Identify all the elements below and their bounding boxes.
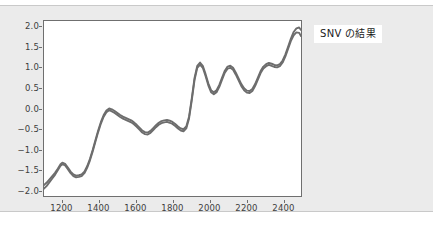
data-series-line-1: [44, 32, 301, 188]
document-panel: 2.01.51.00.50.0−0.5−1.0−1.5−2.0 12001400…: [0, 5, 433, 212]
plot-axes: [43, 20, 302, 197]
x-tick-label: 2400: [264, 203, 304, 213]
x-tick-label: 1600: [116, 203, 156, 213]
y-tick-mark: [39, 170, 42, 171]
x-tick-mark: [210, 200, 211, 203]
chart-figure: 2.01.51.00.50.0−0.5−1.0−1.5−2.0 12001400…: [4, 14, 304, 208]
y-tick-mark: [39, 109, 42, 110]
y-axis-tick-labels: 2.01.51.00.50.0−0.5−1.0−1.5−2.0: [4, 20, 39, 197]
screenshot-root: 2.01.51.00.50.0−0.5−1.0−1.5−2.0 12001400…: [0, 0, 433, 226]
y-tick-mark: [39, 67, 42, 68]
x-tick-label: 1200: [42, 203, 82, 213]
y-tick-label: −1.0: [7, 145, 39, 154]
y-tick-mark: [39, 191, 42, 192]
x-tick-label: 1400: [79, 203, 119, 213]
x-tick-mark: [136, 200, 137, 203]
y-tick-mark: [39, 26, 42, 27]
y-tick-label: 0.5: [7, 83, 39, 92]
x-axis-tick-labels: 1200140016001800200022002400: [43, 200, 302, 216]
y-tick-label: 0.0: [7, 104, 39, 113]
x-tick-label: 1800: [153, 203, 193, 213]
y-tick-label: −2.0: [7, 186, 39, 195]
x-tick-mark: [173, 200, 174, 203]
snv-result-annotation: SNV の結果: [314, 25, 382, 43]
y-tick-label: −0.5: [7, 125, 39, 134]
y-tick-mark: [39, 47, 42, 48]
x-tick-label: 2200: [227, 203, 267, 213]
y-tick-mark: [39, 150, 42, 151]
line-chart-svg: [44, 21, 301, 196]
x-tick-label: 2000: [190, 203, 230, 213]
x-tick-mark: [284, 200, 285, 203]
y-tick-mark: [39, 129, 42, 130]
series-group: [44, 28, 301, 189]
data-series-line-0: [44, 28, 301, 186]
y-tick-label: 2.0: [7, 22, 39, 31]
y-tick-label: −1.5: [7, 166, 39, 175]
x-tick-mark: [99, 200, 100, 203]
y-tick-mark: [39, 88, 42, 89]
x-tick-mark: [62, 200, 63, 203]
y-tick-label: 1.0: [7, 63, 39, 72]
x-tick-mark: [247, 200, 248, 203]
y-tick-label: 1.5: [7, 42, 39, 51]
